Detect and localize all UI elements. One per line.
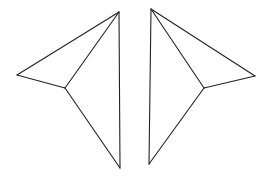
mirrored-kite-diagram [0,0,272,180]
left-kite-edge-inner-bottom [65,88,120,168]
right-kite-edge-outer-inner [204,76,255,88]
left-kite-edge-top-bottom [119,12,120,168]
right-kite-figure [149,9,255,164]
left-kite-edge-inner-top [65,12,119,88]
left-kite-edge-top-outer [17,12,119,75]
right-kite-edge-inner-bottom [149,88,204,164]
left-kite-edge-outer-inner [17,75,65,88]
right-kite-edge-inner-top [151,9,204,88]
diagram-canvas [0,0,272,180]
right-kite-edge-top-outer [151,9,255,76]
left-kite-figure [17,12,120,168]
right-kite-edge-top-bottom [149,9,151,164]
